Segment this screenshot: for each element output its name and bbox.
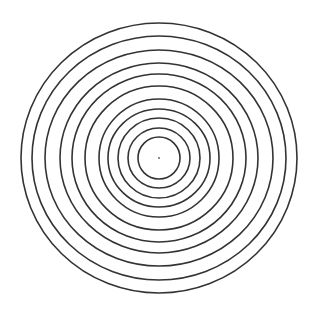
concentric-rings-drawing (0, 0, 318, 311)
center-dot (158, 157, 160, 159)
concentric-circles-figure (0, 0, 318, 311)
